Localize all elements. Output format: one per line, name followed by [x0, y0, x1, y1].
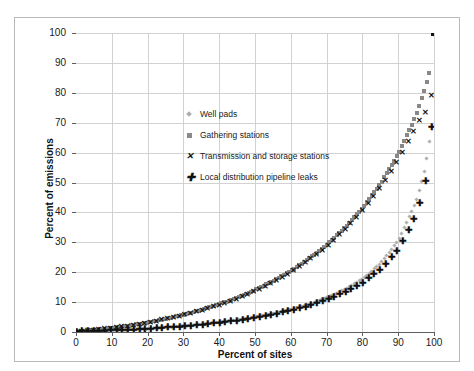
x-tick: [148, 332, 149, 336]
data-point: ✕: [410, 128, 417, 135]
x-tick: [219, 332, 220, 336]
legend-label: Gathering stations: [200, 130, 269, 140]
data-point: [400, 231, 404, 235]
legend-item-gathering-stations: Gathering stations: [183, 124, 398, 145]
x-tick: [112, 332, 113, 336]
x-axis-title: Percent of sites: [76, 349, 434, 360]
data-point: ✕: [405, 138, 412, 145]
data-point: [417, 104, 421, 108]
data-point: ✚: [393, 248, 400, 255]
x-marker-icon: ✕: [183, 149, 197, 163]
x-tick: [327, 332, 328, 336]
x-tick: [76, 332, 77, 336]
y-tick-label: 40: [40, 206, 66, 217]
data-point: ✚: [428, 124, 434, 131]
x-tick-label: 90: [383, 337, 413, 348]
diamond-marker-icon: [183, 107, 197, 121]
data-point: [415, 111, 419, 115]
data-point: [410, 123, 414, 127]
gridline-vertical: [434, 33, 435, 332]
data-point: ✚: [416, 200, 423, 207]
y-tick-label: 80: [40, 87, 66, 98]
data-point: [417, 188, 421, 192]
legend-label: Transmission and storage stations: [200, 151, 329, 161]
x-tick-label: 100: [419, 337, 449, 348]
x-tick: [434, 332, 435, 336]
legend-item-well-pads: Well pads: [183, 103, 398, 124]
data-point: [427, 140, 431, 144]
x-tick-label: 10: [97, 337, 127, 348]
data-point: ✕: [370, 193, 377, 200]
data-point: ✚: [405, 227, 412, 234]
legend-label: Well pads: [200, 109, 237, 119]
data-point: ✕: [365, 200, 372, 207]
x-tick-label: 30: [168, 337, 198, 348]
legend-item-transmission-storage: ✕ Transmission and storage stations: [183, 145, 398, 166]
x-tick: [183, 332, 184, 336]
y-tick-label: 50: [40, 177, 66, 188]
data-point: ✚: [422, 178, 429, 185]
data-point: ✕: [359, 207, 366, 214]
x-tick-label: 70: [312, 337, 342, 348]
y-tick-label: 20: [40, 266, 66, 277]
legend: Well pads Gathering stations ✕ Transmiss…: [183, 103, 398, 187]
data-point: [405, 220, 409, 224]
square-marker-icon: [183, 128, 197, 142]
legend-label: Local distribution pipeline leaks: [200, 172, 318, 182]
x-tick-label: 20: [133, 337, 163, 348]
data-point: [410, 209, 414, 213]
y-tick-label: 70: [40, 117, 66, 128]
x-tick: [255, 332, 256, 336]
data-point: ✕: [422, 109, 429, 116]
data-point: [420, 96, 424, 100]
x-tick-label: 80: [347, 337, 377, 348]
x-tick-label: 0: [61, 337, 91, 348]
y-tick-label: 100: [40, 27, 66, 38]
x-tick-label: 60: [276, 337, 306, 348]
plot-area: ✕✕✕✕✕✕✕✕✕✕✕✕✕✕✕✕✕✕✕✕✕✕✕✕✕✕✕✕✕✕✕✕✕✕✕✕✕✕✕✕…: [76, 33, 434, 332]
data-point: ✚: [410, 216, 417, 223]
chart-figure: Percent of emissions ✕✕✕✕✕✕✕✕✕✕✕✕✕✕✕✕✕✕✕…: [0, 0, 474, 371]
x-tick-label: 40: [204, 337, 234, 348]
data-point: ✕: [428, 92, 434, 99]
y-tick-label: 60: [40, 147, 66, 158]
y-tick-label: 90: [40, 57, 66, 68]
y-tick-label: 0: [40, 326, 66, 337]
x-tick: [291, 332, 292, 336]
data-point: [422, 169, 426, 173]
plus-marker-icon: ✚: [183, 170, 197, 184]
data-point: ✕: [399, 149, 406, 156]
x-tick: [398, 332, 399, 336]
data-point-endpoint: ✚: [431, 33, 435, 37]
data-point: ✚: [399, 238, 406, 245]
data-point: ✕: [416, 117, 423, 124]
data-point: [422, 89, 426, 93]
data-point: [427, 71, 431, 75]
x-tick: [362, 332, 363, 336]
data-point: [425, 80, 429, 84]
legend-item-local-distribution: ✚ Local distribution pipeline leaks: [183, 166, 398, 187]
y-tick-label: 30: [40, 236, 66, 247]
y-tick-label: 10: [40, 296, 66, 307]
x-tick-label: 50: [240, 337, 270, 348]
data-point: [425, 156, 429, 160]
